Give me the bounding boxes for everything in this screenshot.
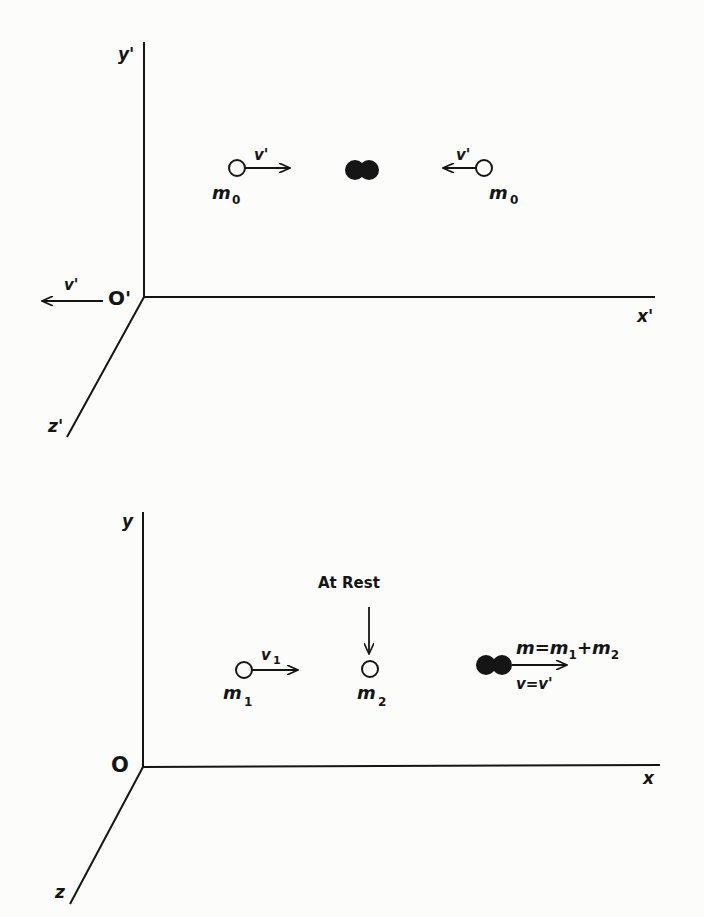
- z-prime-axis-label: z': [47, 416, 63, 436]
- particle-1-velocity-label: v: [261, 646, 272, 664]
- combined-mass-equation: m=m1+m2: [516, 637, 619, 662]
- z-prime-axis: [67, 297, 144, 437]
- particle-left-circle: [229, 160, 245, 176]
- collision-diagram: y' x' z' O' v' v' m 0 v' m 0 y: [0, 0, 704, 917]
- bottom-frame: y x z O At Rest v 1 m 1 m 2 m=m1+m2: [54, 511, 660, 904]
- merged-particle-icon: [345, 160, 379, 180]
- frame-velocity-label: v': [64, 276, 78, 294]
- particle-1-mass-label: m: [223, 682, 242, 703]
- at-rest-label: At Rest: [318, 574, 380, 592]
- particle-left-mass-label: m: [212, 182, 231, 203]
- y-axis-label: y: [122, 511, 134, 531]
- particle-right-mass-label: m: [489, 182, 508, 203]
- particle-1-mass-subscript: 1: [244, 695, 252, 709]
- particle-left-mass-subscript: 0: [232, 193, 240, 207]
- x-prime-axis-label: x': [636, 306, 653, 326]
- particle-2-mass-subscript: 2: [378, 695, 386, 709]
- particle-1-circle: [236, 662, 252, 678]
- particle-2-mass-label: m: [357, 682, 376, 703]
- z-axis: [70, 767, 143, 904]
- combined-particle-icon: [476, 655, 512, 675]
- particle-right-velocity-label: v': [456, 146, 470, 164]
- x-axis: [143, 765, 660, 767]
- z-axis-label: z: [54, 882, 65, 902]
- y-prime-axis-label: y': [118, 44, 134, 64]
- particle-2-circle: [362, 661, 378, 677]
- particle-1-velocity-subscript: 1: [273, 654, 281, 667]
- combined-velocity-equation: v=v': [516, 675, 553, 693]
- x-axis-label: x: [642, 768, 655, 788]
- particle-left-velocity-label: v': [254, 146, 268, 164]
- origin-prime-label: O': [108, 286, 131, 310]
- particle-right-mass-subscript: 0: [510, 193, 518, 207]
- particle-right-circle: [476, 160, 492, 176]
- origin-label: O: [111, 753, 129, 777]
- top-frame: y' x' z' O' v' v' m 0 v' m 0: [42, 42, 655, 437]
